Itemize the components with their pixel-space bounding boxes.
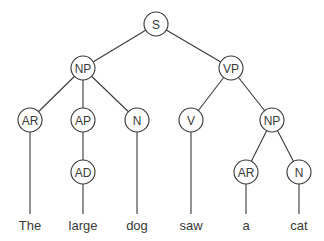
node-label: VP: [223, 62, 239, 76]
node-n1: N: [125, 108, 149, 132]
tree-edges: [30, 24, 299, 172]
node-label: S: [152, 18, 160, 32]
node-ar2: AR: [234, 160, 258, 184]
node-label: AD: [75, 166, 92, 180]
node-n2: N: [287, 160, 311, 184]
node-label: AP: [75, 114, 91, 128]
word-dog: dog: [126, 218, 148, 233]
node-vp: VP: [219, 56, 243, 80]
node-ad: AD: [71, 160, 95, 184]
node-ar1: AR: [18, 108, 42, 132]
tree-nodes: SNPVPARAPNVNPADARN: [18, 12, 311, 184]
word-the: The: [19, 218, 41, 233]
node-label: NP: [75, 62, 92, 76]
word-cat: cat: [290, 218, 308, 233]
node-label: N: [133, 114, 142, 128]
edge-s-np1: [83, 24, 156, 68]
word-connector-lines: [30, 120, 299, 214]
node-label: AR: [22, 114, 39, 128]
node-np2: NP: [260, 108, 284, 132]
node-label: AR: [238, 166, 255, 180]
node-v: V: [179, 108, 203, 132]
node-s: S: [144, 12, 168, 36]
node-np1: NP: [71, 56, 95, 80]
node-label: V: [187, 114, 195, 128]
node-label: N: [295, 166, 304, 180]
node-label: NP: [264, 114, 281, 128]
word-saw: saw: [179, 218, 203, 233]
edge-s-vp: [156, 24, 231, 68]
node-ap: AP: [71, 108, 95, 132]
word-a: a: [242, 218, 250, 233]
word-large: large: [69, 218, 98, 233]
parse-tree-diagram: SNPVPARAPNVNPADARN Thelargedogsawacat: [0, 0, 324, 241]
sentence-words: Thelargedogsawacat: [19, 218, 308, 233]
